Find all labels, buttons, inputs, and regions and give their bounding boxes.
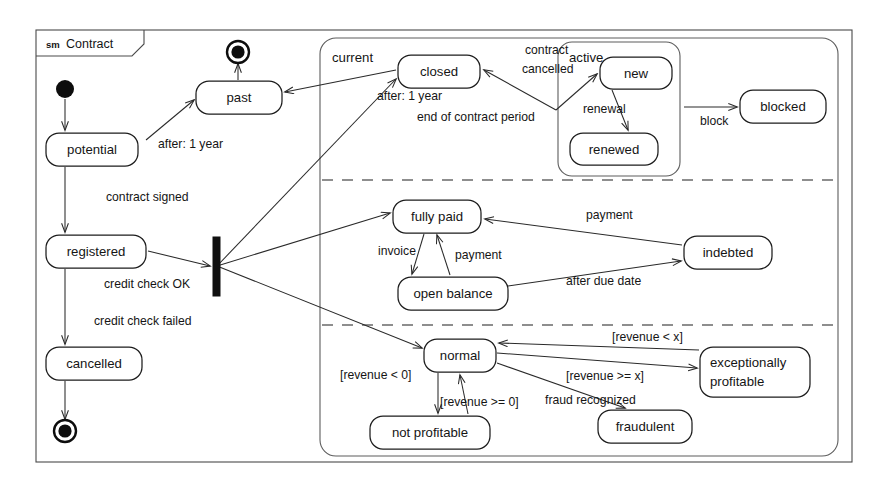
active-region-label: active (569, 50, 603, 65)
transition-edges (65, 64, 737, 419)
frame-name-label: Contract (66, 37, 114, 51)
label-revenue_gte_x: [revenue >= x] (566, 369, 644, 383)
frame-kind-label: sm (46, 39, 60, 50)
state-exceptionally_profitable-label-line2: profitable (710, 374, 764, 389)
label-credit_check_ok: credit check OK (104, 277, 190, 291)
state-exceptionally_profitable[interactable]: exceptionallyprofitable (700, 347, 810, 397)
label-revenue_lt_x: [revenue < x] (612, 330, 683, 344)
current-region-label: current (332, 50, 373, 65)
state-open_balance-label: open balance (413, 286, 492, 301)
state-fully_paid-label: fully paid (411, 209, 463, 224)
state-past[interactable]: past (196, 81, 282, 114)
edge-openbalance-to-fullypaid (437, 235, 450, 275)
label-revenue_lt_0: [revenue < 0] (340, 368, 411, 382)
initial-node (56, 80, 74, 98)
label-payment_ob: payment (455, 248, 502, 262)
label-revenue_gte_0: [revenue >= 0] (440, 395, 519, 409)
state-renewed[interactable]: renewed (570, 133, 658, 165)
label-payment_ind: payment (586, 208, 633, 222)
state-indebted[interactable]: indebted (684, 236, 772, 269)
edge-normal-to-excprofitable (497, 353, 697, 368)
state-exceptionally_profitable-label-line1: exceptionally (710, 355, 787, 370)
state-blocked[interactable]: blocked (740, 90, 826, 123)
edge-active-to-closed (484, 70, 556, 110)
state-not_profitable-label: not profitable (392, 425, 468, 440)
label-renewal: renewal (583, 102, 626, 116)
state-normal[interactable]: normal (424, 339, 496, 372)
state-closed[interactable]: closed (398, 55, 480, 88)
label-after_due_date: after due date (566, 274, 641, 288)
label-contract: contract (525, 43, 569, 57)
label-contract_signed: contract signed (106, 190, 189, 204)
state-normal-label: normal (440, 348, 480, 363)
state-potential[interactable]: potential (46, 133, 138, 166)
state-registered-label: registered (67, 244, 126, 259)
state-fraudulent[interactable]: fraudulent (598, 410, 692, 443)
state-fraudulent-label: fraudulent (616, 419, 675, 434)
state-potential-label: potential (67, 142, 117, 157)
state-cancelled[interactable]: cancelled (46, 347, 142, 380)
label-fraud_recognized: fraud recognized (545, 393, 636, 407)
state-indebted-label: indebted (703, 245, 754, 260)
state-open_balance[interactable]: open balance (398, 277, 508, 310)
state-renewed-label: renewed (589, 142, 640, 157)
state-not_profitable[interactable]: not profitable (370, 416, 490, 449)
edge-potential-to-past (146, 100, 194, 140)
state-registered[interactable]: registered (46, 235, 146, 268)
fork-bar (213, 237, 220, 296)
state-new[interactable]: new (600, 57, 672, 89)
state-closed-label: closed (420, 64, 458, 79)
edge-indebted-to-fullypaid (485, 219, 682, 245)
label-block: block (700, 114, 729, 128)
edge-registered-to-fork (148, 251, 210, 266)
label-credit_check_failed: credit check failed (94, 314, 192, 328)
state-new-label: new (624, 66, 649, 81)
state-machine-diagram: smContract current active pastpotentialr… (0, 0, 886, 493)
label-after_1_year_current: after: 1 year (377, 89, 442, 103)
label-invoice: invoice (378, 244, 416, 258)
label-after_1_year: after: 1 year (158, 137, 223, 151)
state-blocked-label: blocked (760, 99, 805, 114)
diagram-canvas: smContract current active pastpotentialr… (0, 0, 886, 493)
edge-excprofitable-to-normal (499, 343, 699, 350)
final-node-past (231, 45, 244, 58)
state-past-label: past (227, 90, 252, 105)
state-fully_paid[interactable]: fully paid (393, 200, 481, 233)
label-end_of_contract_period: end of contract period (417, 110, 535, 124)
label-cancelled_evt: cancelled (522, 62, 574, 76)
final-node-cancelled (58, 424, 71, 437)
state-cancelled-label: cancelled (66, 356, 122, 371)
